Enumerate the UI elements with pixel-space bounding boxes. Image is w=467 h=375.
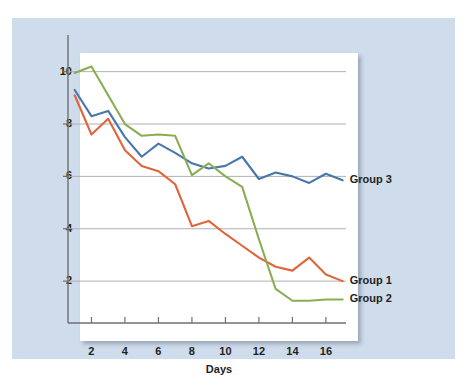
x-tick-label: 2 [81,345,101,357]
x-axis-title: Days [80,363,358,375]
y-tick-label: 6 [50,169,72,181]
x-tick-label: 8 [182,345,202,357]
series-label-group-2: Group 2 [350,292,392,304]
x-tick-label: 14 [282,345,302,357]
x-tick-label: 16 [316,345,336,357]
y-tick-label: 4 [50,222,72,234]
y-tick-label: 2 [50,274,72,286]
y-tick-label: 10 [50,65,72,77]
x-tick-label: 6 [148,345,168,357]
x-tick-label: 4 [115,345,135,357]
series-label-group-1: Group 1 [350,274,392,286]
figure-panel: Mean number of errors Days 2468101214162… [12,18,455,359]
plot-area [80,53,358,341]
x-tick-label: 10 [215,345,235,357]
x-tick-label: 12 [249,345,269,357]
y-tick-label: 8 [50,117,72,129]
series-label-group-3: Group 3 [350,173,392,185]
